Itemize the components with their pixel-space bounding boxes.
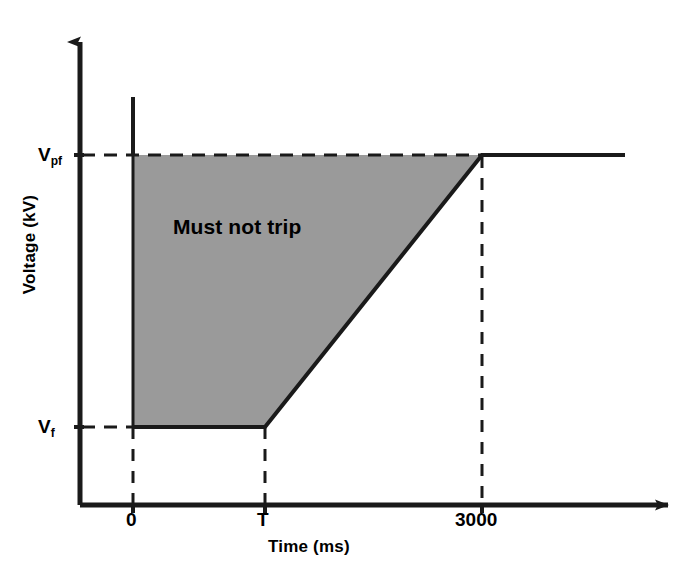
x-tick-label-3000: 3000 [455,510,497,529]
y-tick-label-vpf: Vpf [38,145,62,164]
chart-canvas [0,0,693,574]
y-tick-label-vpf-subscript: pf [51,154,62,168]
x-tick-label-0: 0 [126,510,137,529]
x-axis-title: Time (ms) [268,538,350,555]
must-not-trip-region-label: Must not trip [173,216,301,237]
must-not-trip-region [133,155,482,427]
y-tick-label-vpf-base: V [38,144,51,165]
y-tick-label-vf-subscript: f [51,426,55,440]
y-tick-label-vf: Vf [38,417,55,436]
y-axis-title: Voltage (kV) [21,170,38,320]
x-tick-label-t: T [257,510,269,529]
voltage-ride-through-figure: Voltage (kV) Time (ms) Vpf Vf 0 T 3000 M… [0,0,693,574]
y-tick-label-vf-base: V [38,416,51,437]
